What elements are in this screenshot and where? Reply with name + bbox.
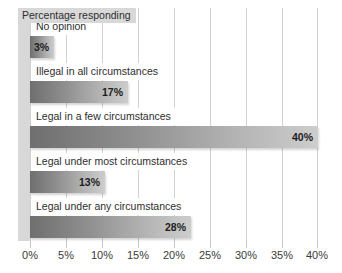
x-axis-label: 0% — [22, 249, 38, 261]
x-axis-label: 25% — [199, 249, 221, 261]
x-axis-label: 5% — [58, 249, 74, 261]
x-axis-ticks — [30, 241, 318, 248]
category-label: Legal under most circumstances — [32, 153, 193, 170]
bar-value-label: 17% — [30, 81, 123, 103]
x-axis-tick — [30, 241, 31, 248]
bar-value-label: 40% — [30, 126, 313, 148]
chart-title: Percentage responding — [18, 8, 136, 23]
category-label: Legal under any circumstances — [32, 198, 187, 215]
x-axis-tick — [174, 241, 175, 248]
category-label: Illegal in all circumstances — [32, 63, 164, 80]
bar-chart: No opinion 3% Illegal in all circumstanc… — [0, 0, 342, 273]
x-axis-tick — [246, 241, 247, 248]
x-axis-tick — [102, 241, 103, 248]
plot-left-margin-band — [18, 8, 30, 241]
bar-row: Illegal in all circumstances 17% — [30, 63, 318, 107]
x-axis-tick — [282, 241, 283, 248]
x-axis-label: 40% — [306, 249, 328, 261]
x-axis-label: 30% — [235, 249, 257, 261]
bar-row: Legal in a few circumstances 40% — [30, 108, 318, 152]
plot-area: No opinion 3% Illegal in all circumstanc… — [30, 8, 318, 241]
bar-value-label: 3% — [32, 36, 56, 58]
x-axis-label: 35% — [271, 249, 293, 261]
bar-row: No opinion 3% — [30, 18, 318, 62]
x-axis-label: 10% — [91, 249, 113, 261]
x-axis-tick — [138, 241, 139, 248]
bar-row: Legal under any circumstances 28% — [30, 198, 318, 242]
x-axis-label: 15% — [127, 249, 149, 261]
x-axis-labels: 0% 5% 10% 15% 20% 25% 30% 35% 40% — [0, 249, 342, 267]
x-axis-tick — [66, 241, 67, 248]
x-axis-label: 20% — [163, 249, 185, 261]
bar-row: Legal under most circumstances 13% — [30, 153, 318, 197]
x-axis-tick — [210, 241, 211, 248]
category-label: Legal in a few circumstances — [32, 108, 177, 125]
bar-value-label: 13% — [30, 171, 100, 193]
x-axis-tick — [317, 241, 318, 248]
bar-value-label: 28% — [30, 216, 186, 238]
